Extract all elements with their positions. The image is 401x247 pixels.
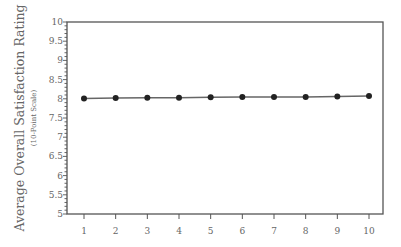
y-axis: 55.566.577.588.599.510 xyxy=(49,17,67,219)
data-point xyxy=(176,95,182,101)
y-axis-subtitle: (10-Point Scale) xyxy=(30,90,38,147)
y-tick-label: 8 xyxy=(57,94,63,104)
y-tick-label: 9.5 xyxy=(49,36,64,46)
y-tick-label: 10 xyxy=(52,17,64,27)
x-tick-label: 2 xyxy=(113,226,119,236)
x-tick-label: 9 xyxy=(334,226,340,236)
x-tick-label: 7 xyxy=(271,226,277,236)
y-tick-label: 7 xyxy=(57,132,63,142)
data-point xyxy=(113,95,119,101)
x-tick-label: 3 xyxy=(144,226,150,236)
data-point xyxy=(366,93,372,99)
y-tick-label: 8.5 xyxy=(49,75,64,85)
y-tick-label: 5 xyxy=(57,209,63,219)
x-tick-label: 5 xyxy=(208,226,214,236)
y-tick-label: 7.5 xyxy=(49,113,64,123)
x-tick-label: 6 xyxy=(239,226,245,236)
x-tick-label: 4 xyxy=(176,226,182,236)
data-series xyxy=(81,93,372,101)
series-line xyxy=(84,96,369,98)
y-tick-label: 9 xyxy=(57,55,63,65)
y-axis-title: Average Overall Satisfaction Rating xyxy=(12,4,27,232)
data-point xyxy=(81,95,87,101)
x-axis: 12345678910 xyxy=(81,214,375,236)
plot-frame xyxy=(67,22,383,214)
data-point xyxy=(208,94,214,100)
data-point xyxy=(144,95,150,101)
x-tick-label: 1 xyxy=(81,226,87,236)
line-chart: 55.566.577.588.599.510 12345678910 Avera… xyxy=(0,0,401,247)
y-tick-label: 5.5 xyxy=(49,190,64,200)
plot-border xyxy=(67,22,383,214)
data-point xyxy=(239,94,245,100)
y-tick-label: 6.5 xyxy=(49,151,64,161)
x-tick-label: 8 xyxy=(303,226,309,236)
y-tick-label: 6 xyxy=(57,171,63,181)
y-axis-label: Average Overall Satisfaction Rating (10-… xyxy=(12,4,38,232)
data-point xyxy=(271,94,277,100)
x-tick-label: 10 xyxy=(363,226,375,236)
data-point xyxy=(334,93,340,99)
data-point xyxy=(303,94,309,100)
